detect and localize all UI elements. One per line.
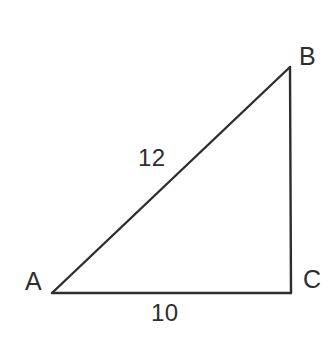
vertex-label-a: A bbox=[25, 269, 42, 294]
geometry-diagram: A B C 12 10 bbox=[0, 0, 334, 346]
side-ab-hypotenuse-line bbox=[52, 67, 290, 293]
side-length-label-base: 10 bbox=[151, 301, 178, 325]
vertex-label-b: B bbox=[299, 44, 316, 69]
vertex-label-c: C bbox=[303, 267, 321, 292]
side-bc-vertical-line bbox=[290, 67, 291, 293]
side-length-label-hypotenuse: 12 bbox=[138, 146, 165, 170]
triangle-shape bbox=[0, 0, 334, 346]
